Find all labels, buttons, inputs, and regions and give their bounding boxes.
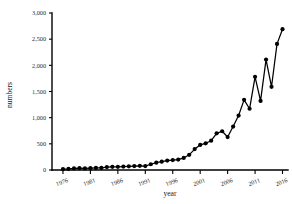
x-tick-label: 2006 (219, 176, 233, 187)
data-point-marker (165, 158, 169, 162)
x-tick-label: 1981 (82, 176, 96, 187)
data-point-marker (242, 98, 246, 102)
x-axis-title: year (163, 189, 177, 198)
y-axis-title: numbers (5, 82, 14, 108)
data-point-marker (247, 107, 251, 111)
data-point-marker (171, 158, 175, 162)
x-tick-label: 2011 (247, 176, 261, 187)
data-series-numbers (61, 27, 285, 171)
data-point-marker (154, 161, 158, 165)
x-tick-label: 2016 (274, 176, 288, 187)
x-tick-label: 1986 (110, 176, 124, 187)
data-point-marker (121, 165, 125, 169)
series-line-numbers (63, 29, 283, 169)
data-point-marker (105, 165, 109, 169)
line-chart-canvas: 05001,0001,5002,0002,5003,000 numbers 19… (0, 0, 292, 204)
data-point-marker (88, 166, 92, 170)
data-point-marker (198, 143, 202, 147)
data-point-marker (77, 166, 81, 170)
data-point-marker (72, 166, 76, 170)
data-point-marker (94, 166, 98, 170)
x-axis-tick-labels: 197619811986199119962001200620112016 (55, 176, 289, 187)
data-point-marker (176, 157, 180, 161)
data-point-marker (138, 164, 142, 168)
data-point-marker (209, 139, 213, 143)
data-point-marker (269, 85, 273, 89)
data-point-marker (61, 167, 65, 171)
data-point-marker (258, 99, 262, 103)
data-point-marker (99, 166, 103, 170)
y-tick-label: 1,500 (32, 88, 46, 95)
x-tick-label: 1976 (55, 176, 69, 187)
data-point-marker (127, 164, 131, 168)
data-point-marker (83, 166, 87, 170)
data-point-marker (215, 131, 219, 135)
y-tick-label: 3,000 (32, 9, 46, 16)
data-point-marker (182, 156, 186, 160)
data-point-marker (193, 147, 197, 151)
data-point-marker (143, 164, 147, 168)
data-point-marker (231, 124, 235, 128)
data-point-marker (204, 141, 208, 145)
data-point-marker (220, 129, 224, 133)
x-tick-label: 2001 (192, 176, 206, 187)
data-point-marker (264, 57, 268, 61)
y-tick-label: 2,500 (32, 35, 46, 42)
data-point-marker (237, 113, 241, 117)
data-point-marker (110, 165, 114, 169)
data-point-marker (116, 165, 120, 169)
data-point-marker (160, 160, 164, 164)
y-tick-label: 0 (43, 166, 46, 173)
y-tick-label: 500 (37, 140, 46, 147)
data-point-marker (149, 162, 153, 166)
x-axis-group: 197619811986199119962001200620112016 yea… (52, 170, 288, 198)
data-point-marker (132, 164, 136, 168)
x-tick-label: 1996 (165, 176, 179, 187)
x-tick-label: 1991 (137, 176, 151, 187)
data-point-marker (275, 42, 279, 46)
data-point-marker (280, 27, 284, 31)
chart-figure: 05001,0001,5002,0002,5003,000 numbers 19… (0, 0, 292, 204)
data-point-marker (253, 75, 257, 79)
data-point-marker (226, 135, 230, 139)
data-point-marker (187, 153, 191, 157)
data-point-marker (66, 167, 70, 171)
y-axis-group: 05001,0001,5002,0002,5003,000 numbers (5, 9, 52, 173)
y-tick-label: 2,000 (32, 62, 46, 69)
y-tick-label: 1,000 (32, 114, 46, 121)
y-axis-tick-labels: 05001,0001,5002,0002,5003,000 (32, 9, 46, 173)
